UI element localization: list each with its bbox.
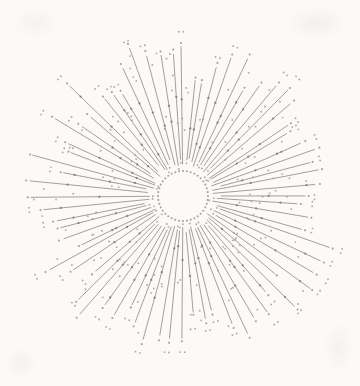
radial-burst-drawing bbox=[0, 0, 360, 386]
paper-background bbox=[0, 0, 360, 386]
